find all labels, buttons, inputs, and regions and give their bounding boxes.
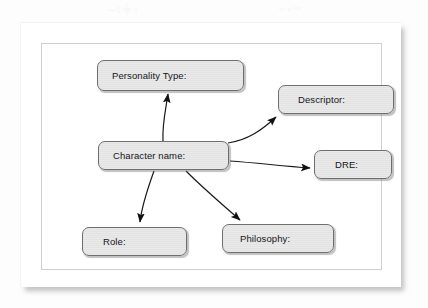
edge-character-to-dre [230,161,310,168]
node-label: Character name: [99,150,185,161]
node-label: Personality Type: [98,70,186,81]
edge-character-to-personality [163,94,168,141]
node-descriptor[interactable]: Descriptor: [278,85,394,114]
node-role[interactable]: Role: [82,227,187,256]
edge-character-to-role [140,171,154,222]
scan-artifact-right: ∼ᴠᵗᵉˢ [278,4,301,14]
scan-artifact-left: ∼ʕ⸎ ǀ [108,3,138,16]
node-personality-type[interactable]: Personality Type: [97,60,244,91]
diagram-frame: Personality Type: Descriptor: Character … [41,43,382,270]
node-label: DRE: [315,159,358,170]
node-label: Philosophy: [223,233,290,244]
node-dre[interactable]: DRE: [314,150,392,179]
node-philosophy[interactable]: Philosophy: [222,224,334,253]
screenshot-canvas: ∼ʕ⸎ ǀ ∼ᴠᵗᵉˢ [0,0,428,308]
node-character-name[interactable]: Character name: [98,141,229,170]
diagram-canvas: Personality Type: Descriptor: Character … [42,44,381,269]
edge-character-to-descriptor [228,117,276,143]
edge-character-to-philosophy [186,171,240,220]
node-label: Role: [83,236,126,247]
node-label: Descriptor: [279,94,345,105]
scanned-page: Personality Type: Descriptor: Character … [20,22,401,287]
